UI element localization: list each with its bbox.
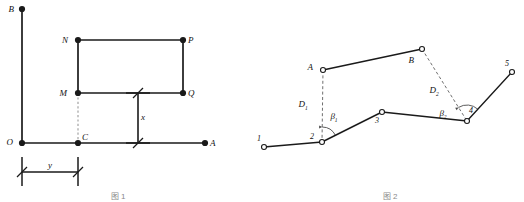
left-point-A bbox=[202, 140, 208, 146]
right-label-2: 2 bbox=[310, 132, 314, 141]
figure-right-group: 12345AB D1D2β1β2 图 2 bbox=[257, 47, 515, 202]
figure-left-group: BOANPMQC yx 图 1 bbox=[7, 4, 217, 201]
dimension-label-dim-y: y bbox=[47, 160, 52, 170]
traverse-leg-3-4 bbox=[382, 112, 467, 121]
left-solid-edges bbox=[22, 9, 205, 143]
angle-arc-beta1 bbox=[322, 127, 335, 135]
right-traverse-legs bbox=[264, 72, 512, 147]
reference-leg-AB bbox=[323, 49, 422, 70]
left-point-M bbox=[75, 90, 81, 96]
left-point-labels: BOANPMQC bbox=[7, 4, 217, 148]
right-reference-leg bbox=[323, 49, 422, 70]
right-point-1 bbox=[262, 145, 267, 150]
left-point-N bbox=[75, 37, 81, 43]
angle-arrow-beta2 bbox=[455, 107, 458, 110]
left-label-O: O bbox=[7, 137, 14, 147]
survey-figures-canvas: BOANPMQC yx 图 1 12345AB D1D2β1β2 图 2 bbox=[0, 0, 524, 201]
traverse-leg-4-5 bbox=[467, 72, 512, 121]
left-label-M: M bbox=[59, 88, 68, 98]
left-point-markers bbox=[19, 6, 208, 146]
right-station-markers bbox=[262, 47, 515, 150]
left-point-O bbox=[19, 140, 25, 146]
connector-label-D1: D1 bbox=[297, 99, 308, 111]
right-point-4 bbox=[465, 119, 470, 124]
dimension-label-dim-x: x bbox=[140, 112, 145, 122]
left-label-N: N bbox=[61, 35, 69, 45]
figure-left-caption: 图 1 bbox=[111, 192, 126, 201]
right-label-5: 5 bbox=[505, 59, 509, 68]
right-point-B bbox=[420, 47, 425, 52]
right-point-A bbox=[321, 68, 326, 73]
right-label-1: 1 bbox=[257, 134, 261, 143]
traverse-leg-1-2 bbox=[264, 142, 322, 147]
dimension-dim-x bbox=[126, 88, 150, 148]
right-label-A: A bbox=[307, 62, 314, 72]
left-point-P bbox=[180, 37, 186, 43]
angle-label-beta2: β2 bbox=[438, 108, 446, 120]
left-dimension-labels: yx bbox=[47, 112, 145, 170]
angle-label-beta1: β1 bbox=[329, 111, 337, 123]
connector-label-D2: D2 bbox=[428, 85, 439, 97]
left-label-P: P bbox=[187, 35, 194, 45]
right-point-5 bbox=[510, 70, 515, 75]
right-connector-lines bbox=[322, 49, 467, 142]
left-point-B bbox=[19, 6, 25, 12]
left-label-Q: Q bbox=[188, 88, 195, 98]
left-label-C: C bbox=[82, 132, 89, 142]
left-point-Q bbox=[180, 90, 186, 96]
left-point-C bbox=[75, 140, 81, 146]
right-label-3: 3 bbox=[374, 116, 379, 125]
right-point-2 bbox=[320, 140, 325, 145]
right-label-4: 4 bbox=[469, 106, 473, 115]
right-station-labels: 12345AB bbox=[257, 55, 509, 143]
left-label-B: B bbox=[9, 4, 15, 14]
right-label-B: B bbox=[409, 55, 415, 65]
connector-D1 bbox=[322, 70, 323, 142]
right-point-3 bbox=[380, 110, 385, 115]
figure-sheet: BOANPMQC yx 图 1 12345AB D1D2β1β2 图 2 bbox=[0, 0, 524, 201]
figure-right-caption: 图 2 bbox=[383, 192, 398, 201]
left-label-A: A bbox=[209, 138, 216, 148]
